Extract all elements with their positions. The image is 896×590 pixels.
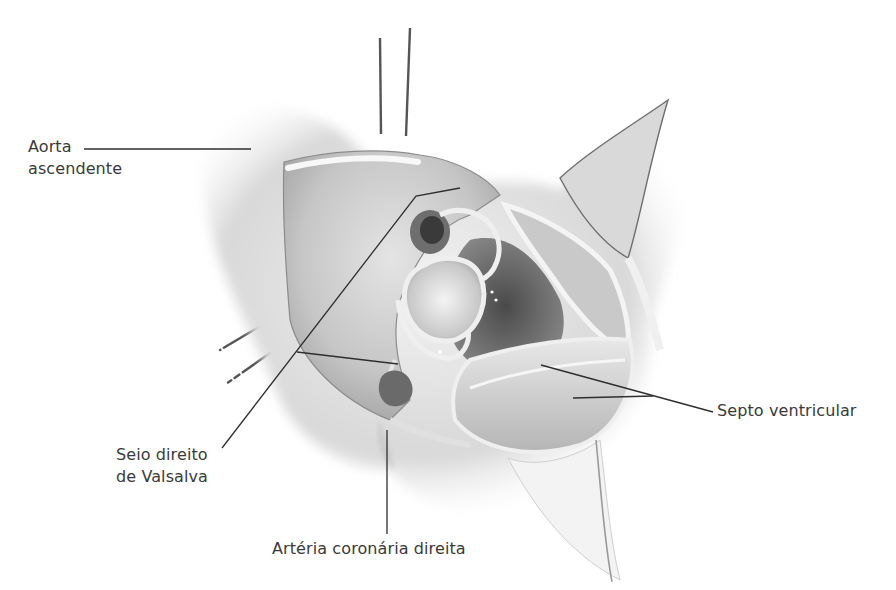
label-aorta-line1: Aorta [28,136,122,158]
label-septo-text: Septo ventricular [717,400,857,422]
label-arteria-coronaria-direita: Artéria coronária direita [272,538,466,560]
retractor-rods-top [380,28,410,136]
anatomy-figure: Aorta ascendente Seio direito de Valsalv… [0,0,896,590]
label-arteria-text: Artéria coronária direita [272,538,466,560]
label-seio-line2: de Valsalva [116,466,208,488]
aortic-root-illustration [0,0,896,590]
label-seio-line1: Seio direito [116,444,208,466]
label-aorta-ascendente: Aorta ascendente [28,136,122,180]
label-seio-direito-valsalva: Seio direito de Valsalva [116,444,208,488]
label-aorta-line2: ascendente [28,158,122,180]
label-septo-ventricular: Septo ventricular [717,400,857,422]
